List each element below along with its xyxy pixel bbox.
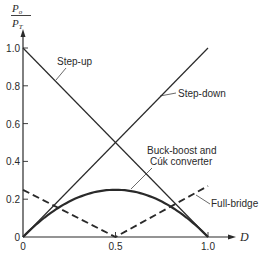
axes xyxy=(21,29,237,240)
leader-line xyxy=(56,68,66,80)
annotation-step-up: Step-up xyxy=(56,56,92,80)
y-axis-label: Po PT xyxy=(11,2,31,31)
annotation-buck-boost: Buck-boost and Cúk converter xyxy=(131,145,217,189)
svg-text:Full-bridge: Full-bridge xyxy=(211,198,259,209)
leader-line xyxy=(196,195,210,204)
y-label-numerator: Po xyxy=(11,2,23,16)
series-group xyxy=(23,48,208,237)
y-tick-label: 0.6 xyxy=(6,119,20,130)
y-tick-label: 0.2 xyxy=(6,194,20,205)
svg-text:Buck-boost and: Buck-boost and xyxy=(147,145,217,156)
leader-line xyxy=(131,168,152,189)
y-tick-label: 1.0 xyxy=(6,43,20,54)
y-tick-label: 0.8 xyxy=(6,81,20,92)
y-ticks: 00.20.40.60.81.0 xyxy=(6,43,28,243)
x-ticks: 00.51.0 xyxy=(20,232,215,252)
x-tick-label: 0.5 xyxy=(109,241,123,252)
annotation-step-down: Step-down xyxy=(160,88,226,99)
annotation-full-bridge: Full-bridge xyxy=(196,195,259,209)
x-tick-label: 0 xyxy=(20,241,26,252)
series-full-bridge xyxy=(23,186,208,237)
y-tick-label: 0.4 xyxy=(6,156,20,167)
x-axis-label: D xyxy=(239,230,249,244)
power-ratio-chart: Po PT D 00.20.40.60.81.0 00.51.0 Step-up… xyxy=(0,0,265,257)
y-label-denominator: PT xyxy=(11,17,24,31)
svg-text:Step-down: Step-down xyxy=(178,88,226,99)
svg-text:Cúk converter: Cúk converter xyxy=(150,156,213,167)
x-axis-arrow-icon xyxy=(228,235,236,240)
x-tick-label: 1.0 xyxy=(201,241,215,252)
series-buck-boost-and-c-k-converter xyxy=(23,190,208,237)
svg-text:Step-up: Step-up xyxy=(57,56,92,67)
